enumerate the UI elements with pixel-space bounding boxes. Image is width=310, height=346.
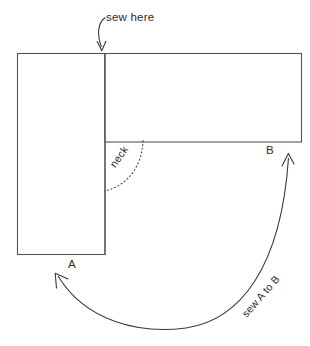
point-a-label: A bbox=[68, 259, 76, 271]
left-panel-shape bbox=[18, 54, 106, 255]
point-b-label: B bbox=[266, 145, 274, 157]
sewing-diagram: sew here A B neck sew A to B bbox=[0, 0, 310, 346]
sew-here-label: sew here bbox=[106, 12, 154, 24]
right-panel-shape bbox=[105, 54, 302, 143]
sew-here-arrow-shaft bbox=[99, 18, 106, 48]
